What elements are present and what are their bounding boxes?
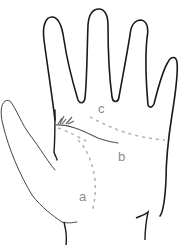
hand-outline	[43, 9, 177, 216]
label-b: b	[118, 150, 125, 163]
line-c	[90, 117, 165, 140]
fork-marks	[58, 116, 74, 124]
label-a: a	[79, 190, 86, 203]
wrist-left	[64, 222, 66, 245]
line-b	[56, 125, 118, 143]
wrist-right	[136, 212, 148, 240]
thumb-crease	[54, 110, 57, 160]
hand-diagram	[0, 0, 185, 252]
label-c: c	[98, 102, 105, 115]
line-b-extension	[58, 128, 88, 142]
